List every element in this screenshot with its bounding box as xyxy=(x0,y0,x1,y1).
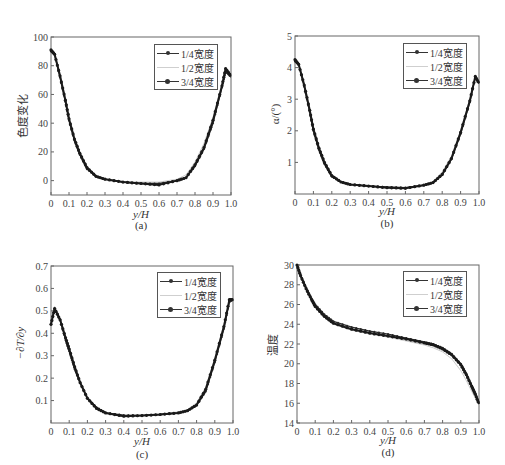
svg-text:22: 22 xyxy=(284,339,294,350)
y-axis-label: 温度 xyxy=(264,325,280,365)
svg-text:0.7: 0.7 xyxy=(418,426,431,437)
svg-text:26: 26 xyxy=(284,299,294,310)
svg-text:24: 24 xyxy=(284,319,294,330)
legend-entry: 1/2宽度 xyxy=(406,287,463,301)
svg-text:0.2: 0.2 xyxy=(327,426,340,437)
svg-text:20: 20 xyxy=(284,358,294,369)
svg-text:16: 16 xyxy=(284,398,294,409)
svg-text:0: 0 xyxy=(295,426,300,437)
svg-text:0.9: 0.9 xyxy=(455,426,468,437)
line-star-marker-icon xyxy=(406,303,428,313)
x-axis-label: y/H xyxy=(368,434,408,446)
svg-text:0.1: 0.1 xyxy=(309,426,322,437)
legend-entry: 3/4宽度 xyxy=(406,301,463,315)
line-marker-icon xyxy=(406,275,428,285)
svg-text:14: 14 xyxy=(284,418,294,429)
svg-text:18: 18 xyxy=(284,378,294,389)
chart-panel-d: 00.10.20.30.40.50.60.70.80.91.0141618202… xyxy=(0,0,505,465)
svg-text:0.3: 0.3 xyxy=(345,426,358,437)
svg-text:0.8: 0.8 xyxy=(436,426,449,437)
plot-area: 00.10.20.30.40.50.60.70.80.91.0141618202… xyxy=(0,0,505,465)
svg-text:30: 30 xyxy=(284,260,294,271)
legend-entry: 1/4宽度 xyxy=(406,273,463,287)
svg-text:28: 28 xyxy=(284,279,294,290)
figure-caption: (d) xyxy=(368,446,408,458)
legend: 1/4宽度 1/2宽度 3/4宽度 xyxy=(403,271,467,317)
svg-text:1.0: 1.0 xyxy=(473,426,486,437)
line-icon xyxy=(406,289,428,299)
